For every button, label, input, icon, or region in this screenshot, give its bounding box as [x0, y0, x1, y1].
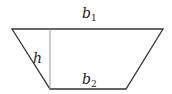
trapezoid-diagram: b1 h b2 — [0, 0, 172, 94]
height-label: h — [33, 50, 42, 66]
bottom-base-label: b2 — [82, 71, 97, 89]
top-base-label: b1 — [82, 5, 97, 23]
